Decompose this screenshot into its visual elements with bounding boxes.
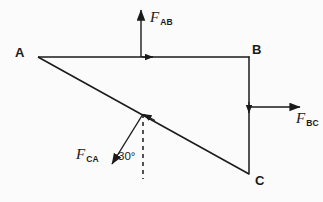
force-symbol-F-AB: F	[150, 9, 159, 25]
force-subscript-AB: AB	[160, 17, 173, 27]
force-label-F-CA: FCA	[76, 147, 98, 162]
force-label-F-BC: FBC	[296, 111, 318, 126]
member-CA-direction-arrow	[144, 114, 156, 120]
force-subscript-CA: CA	[86, 154, 99, 164]
force-subscript-BC: BC	[306, 118, 319, 128]
vertex-label-B: B	[252, 43, 261, 56]
force-symbol-F-BC: F	[296, 110, 305, 126]
vertex-label-C: C	[255, 174, 264, 187]
force-symbol-F-CA: F	[76, 146, 85, 162]
force-label-F-AB: FAB	[150, 10, 172, 25]
diagram-canvas: A B C FAB FBC FCA 30°	[0, 0, 323, 202]
force-diagram-svg	[0, 0, 323, 202]
angle-label-30-degrees: 30°	[118, 151, 135, 163]
vertex-label-A: A	[15, 46, 24, 59]
